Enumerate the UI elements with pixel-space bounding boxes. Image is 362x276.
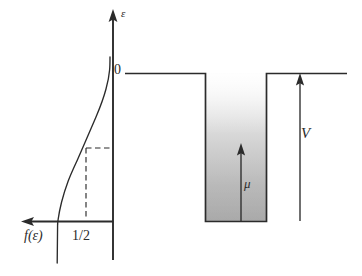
distribution-axis bbox=[21, 217, 113, 226]
half-occupancy-guides bbox=[86, 148, 113, 220]
zero-level-label: 0 bbox=[114, 63, 121, 77]
chemical-potential-label: μ bbox=[244, 177, 251, 190]
physics-figure: ε 0 f(ε) 1/2 μ V bbox=[0, 0, 362, 276]
energy-axis-label: ε bbox=[121, 8, 125, 19]
well-depth-label: V bbox=[301, 126, 310, 141]
well-depth-arrow bbox=[296, 73, 304, 221]
half-occupancy-label: 1/2 bbox=[72, 229, 90, 243]
potential-well-fill bbox=[206, 74, 267, 222]
distribution-axis-label: f(ε) bbox=[24, 229, 43, 243]
